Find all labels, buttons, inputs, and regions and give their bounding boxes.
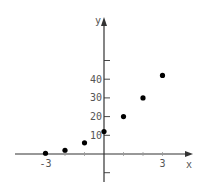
x-axis-arrow-icon [185, 151, 193, 157]
scatter-chart: -3310203040 x y [0, 0, 203, 189]
data-point [82, 140, 87, 145]
data-point [140, 95, 145, 100]
y-tick-label: 30 [90, 92, 102, 103]
y-tick-label: 10 [90, 130, 102, 141]
data-point [62, 148, 67, 153]
y-axis-label: y [95, 15, 101, 26]
y-tick-label: 40 [90, 74, 102, 85]
data-point [101, 129, 106, 134]
data-point [43, 151, 48, 156]
data-point [160, 73, 165, 78]
data-point [121, 114, 126, 119]
tick-labels: -3310203040 [39, 74, 165, 169]
x-axis-label: x [186, 159, 192, 170]
y-tick-label: 20 [90, 111, 102, 122]
y-axis-arrow-icon [101, 17, 107, 26]
x-tick-label: -3 [39, 158, 51, 169]
x-tick-label: 3 [159, 158, 165, 169]
